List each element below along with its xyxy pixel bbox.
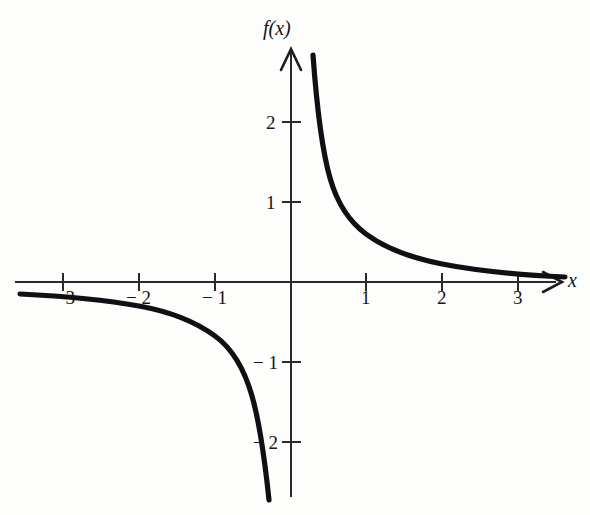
y-tick-label-1: 1: [266, 193, 276, 212]
curve-branch-positive: [313, 55, 565, 277]
x-tick-label--2: − 2: [126, 288, 151, 307]
x-tick-label--3: − 3: [50, 288, 75, 307]
x-axis-label: x: [568, 270, 577, 290]
function-graph-figure: − 3 − 2 − 1 1 2 3 2 1 − 1 − 2 f(x) x: [0, 0, 590, 515]
x-tick-label-3: 3: [513, 288, 523, 307]
y-tick-label-2: 2: [266, 113, 276, 132]
y-axis-label: f(x): [263, 18, 291, 38]
x-tick-label--1: − 1: [202, 288, 227, 307]
plot-canvas: [0, 0, 590, 515]
y-tick-label--2: − 2: [253, 433, 278, 452]
curve-branch-negative: [20, 294, 269, 500]
x-tick-label-2: 2: [437, 288, 447, 307]
x-tick-label-1: 1: [361, 288, 371, 307]
y-tick-label--1: − 1: [253, 353, 278, 372]
